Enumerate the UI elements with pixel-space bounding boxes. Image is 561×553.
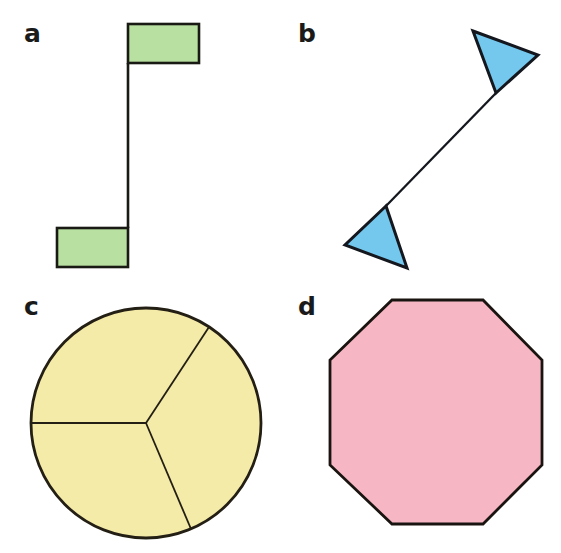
panel-d-octagon bbox=[330, 300, 542, 524]
panel-a-group: a bbox=[24, 19, 199, 267]
figure-container: a b c d bbox=[0, 0, 561, 553]
panel-label-b: b bbox=[298, 19, 316, 48]
panel-b-upper-triangle bbox=[473, 31, 538, 93]
panel-c-group: c bbox=[24, 292, 261, 538]
panel-b-group: b bbox=[298, 19, 538, 268]
panel-a-bottom-rectangle bbox=[57, 228, 128, 267]
panel-d-group: d bbox=[298, 292, 542, 524]
panel-a-top-rectangle bbox=[128, 24, 199, 63]
panel-label-c: c bbox=[24, 292, 39, 321]
panel-b-connector-line bbox=[386, 93, 496, 206]
shape-figure-svg: a b c d bbox=[0, 0, 561, 553]
panel-b-lower-triangle bbox=[345, 206, 407, 268]
panel-label-a: a bbox=[24, 19, 41, 48]
panel-label-d: d bbox=[298, 292, 316, 321]
